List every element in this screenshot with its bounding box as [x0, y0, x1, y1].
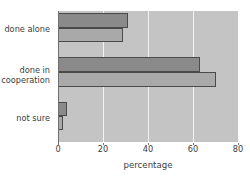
y-axis-labels: done alone done in cooperation not sure: [0, 0, 54, 179]
y-axis-line: [58, 11, 59, 143]
x-tick-label-60: 60: [188, 145, 198, 155]
x-axis-title: percentage: [124, 160, 173, 170]
x-tick-label-80: 80: [233, 145, 243, 155]
bar-done-in-cooperation-series-b: [58, 72, 216, 87]
y-axis-label-not-sure: not sure: [16, 114, 50, 124]
bar-done-alone-series-b: [58, 28, 123, 42]
x-tick-label-0: 0: [55, 145, 60, 155]
bar-chart: done alone done in cooperation not sure …: [0, 0, 250, 179]
bar-done-in-cooperation-series-a: [58, 57, 200, 72]
y-axis-label-done-in-cooperation-line2: cooperation: [1, 76, 50, 86]
bar-done-alone-series-a: [58, 13, 128, 28]
plot-area: [58, 11, 238, 142]
y-axis-label-done-alone: done alone: [4, 25, 50, 35]
x-tick-label-20: 20: [98, 145, 108, 155]
x-tick-label-40: 40: [143, 145, 153, 155]
bar-not-sure-series-a: [58, 102, 67, 116]
